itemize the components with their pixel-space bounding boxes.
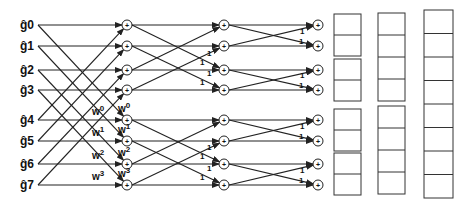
twiddle-label: w3: [117, 166, 131, 179]
gain-label: 1: [300, 27, 305, 36]
signal-line: [38, 25, 124, 116]
twiddle-label: w2: [117, 145, 131, 158]
plus-icon: +: [316, 182, 320, 189]
plus-icon: +: [316, 22, 320, 29]
signal-line: [38, 90, 124, 181]
gain-label: 1: [299, 37, 304, 46]
twiddle-label: w0: [117, 101, 131, 114]
plus-icon: +: [316, 138, 320, 145]
gain-label: 1: [207, 164, 212, 173]
output-tables: [334, 10, 453, 198]
gain-label: 1: [200, 152, 205, 161]
plus-icon: +: [222, 138, 226, 145]
gain-label: 1: [200, 78, 205, 87]
input-label: ĝ4: [20, 113, 34, 127]
fft-diagram: ++++++++++++++++++++++++ ĝ0 ĝ1 ĝ2 ĝ3 ĝ4 …: [0, 0, 473, 210]
gain-label: 1: [299, 132, 304, 141]
plus-icon: +: [125, 138, 129, 145]
plus-icon: +: [125, 87, 129, 94]
gain-label: 1: [299, 81, 304, 90]
gain-label: 1: [300, 166, 305, 175]
input-label: ĝ3: [20, 83, 34, 97]
plus-icon: +: [222, 117, 226, 124]
plus-icon: +: [222, 87, 226, 94]
input-label: ĝ1: [20, 39, 34, 53]
plus-icon: +: [222, 67, 226, 74]
plus-icon: +: [316, 87, 320, 94]
plus-icon: +: [222, 43, 226, 50]
plus-icon: +: [222, 182, 226, 189]
gain-label: 1: [300, 122, 305, 131]
plus-icon: +: [316, 67, 320, 74]
input-label: ĝ2: [20, 63, 34, 77]
gain-label: 1: [207, 49, 212, 58]
butterfly-lines: [38, 25, 313, 185]
twiddle-label: w1: [117, 122, 131, 135]
plus-icon: +: [125, 43, 129, 50]
signal-line: [38, 29, 124, 120]
plus-icon: +: [316, 161, 320, 168]
signal-line: [38, 70, 124, 160]
plus-icon: +: [125, 67, 129, 74]
gain-label: 1: [207, 143, 212, 152]
plus-icon: +: [316, 117, 320, 124]
plus-icon: +: [316, 43, 320, 50]
plus-icon: +: [125, 182, 129, 189]
gain-label: 1: [207, 69, 212, 78]
twiddle-label: w3: [91, 169, 105, 182]
signal-line: [38, 50, 124, 141]
gain-label: 1: [300, 71, 305, 80]
plus-icon: +: [222, 22, 226, 29]
signal-line: [38, 74, 124, 164]
gain-label: 1: [200, 58, 205, 67]
signal-line: [38, 46, 124, 137]
input-label: ĝ6: [20, 157, 34, 171]
twiddle-label: w1: [91, 125, 105, 138]
plus-icon: +: [222, 161, 226, 168]
gain-label: 1: [299, 176, 304, 185]
signal-line: [38, 94, 124, 185]
input-label: ĝ0: [20, 18, 34, 32]
gain-label: 1: [200, 173, 205, 182]
input-label: ĝ7: [20, 178, 34, 192]
plus-icon: +: [125, 22, 129, 29]
input-label: ĝ5: [20, 134, 34, 148]
